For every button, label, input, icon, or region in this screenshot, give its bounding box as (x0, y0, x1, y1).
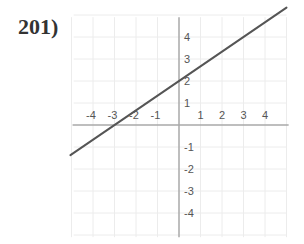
x-tick-label: -4 (86, 109, 96, 121)
y-tick-label: 4 (184, 31, 190, 43)
x-tick-label: -3 (108, 109, 118, 121)
x-tick-label: 3 (240, 109, 246, 121)
y-tick-label: -3 (184, 185, 194, 197)
x-tick-label: -1 (151, 109, 161, 121)
x-tick-label: 2 (219, 109, 225, 121)
x-tick-label: 4 (262, 109, 268, 121)
x-axis-tick-labels: -4-3-2-11234 (86, 109, 268, 121)
y-tick-label: 1 (184, 97, 190, 109)
y-tick-label: -1 (184, 141, 194, 153)
x-tick-label: 1 (197, 109, 203, 121)
y-tick-label: -2 (184, 163, 194, 175)
y-tick-label: 3 (184, 53, 190, 65)
axes (73, 17, 289, 237)
coordinate-plane-chart: -4-3-2-11234 4321-1-2-3-4 (0, 0, 304, 244)
y-tick-label: -4 (184, 207, 194, 219)
